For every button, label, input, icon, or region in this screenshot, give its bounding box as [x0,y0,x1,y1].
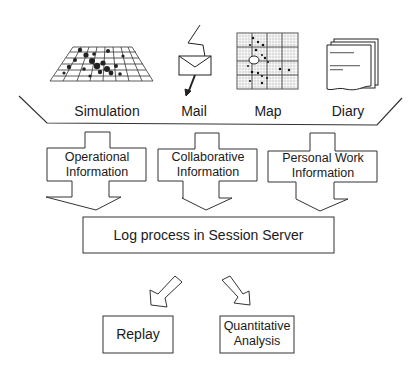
quantitative-analysis-label: Quantitative Analysis [220,319,294,349]
log-process-label: Log process in Session Server [83,228,334,243]
map-grid-icon [237,33,298,89]
info-collaborative-line2: Information [162,165,254,180]
simulation-grid-icon [50,47,153,81]
info-collaborative-label: Collaborative Information [162,150,254,180]
diagram-graphics [0,0,418,370]
arrow-to-replay [150,276,182,307]
replay-label: Replay [103,327,173,342]
output-arrows [150,276,250,307]
info-operational-line2: Information [52,165,142,180]
source-label-map: Map [250,104,286,119]
info-personal-work-line1: Personal Work [272,151,374,166]
source-label-diary: Diary [328,104,368,119]
source-label-mail: Mail [178,104,210,119]
diary-pages-icon [327,39,378,90]
info-operational-label: Operational Information [52,150,142,180]
analysis-line2: Analysis [220,334,294,349]
info-operational-line1: Operational [52,150,142,165]
arrow-to-analysis [222,276,250,305]
info-personal-work-line2: Information [272,166,374,181]
info-collaborative-line1: Collaborative [162,150,254,165]
info-personal-work-label: Personal Work Information [272,151,374,181]
analysis-line1: Quantitative [220,319,294,334]
source-label-simulation: Simulation [72,104,142,119]
mail-envelope-icon [179,25,211,96]
system-diagram: Simulation Mail Map Diary Operational In… [0,0,418,370]
